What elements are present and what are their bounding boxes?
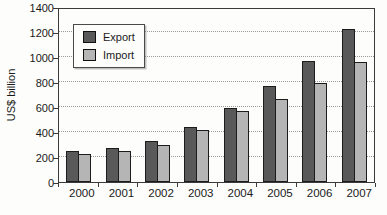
x-tick-label-2001: 2001 <box>99 187 143 199</box>
x-tick-label-2005: 2005 <box>258 187 302 199</box>
export-import-bar-chart: US$ billion 0200400600800100012001400 20… <box>0 0 387 215</box>
bar-import-2001 <box>118 151 131 182</box>
y-tick-label-200: 200 <box>12 152 54 164</box>
legend-item-export: Export <box>83 31 135 43</box>
legend-item-import: Import <box>83 49 135 61</box>
y-tick-label-1200: 1200 <box>12 27 54 39</box>
x-tick-label-2007: 2007 <box>337 187 381 199</box>
x-tick-mark-4 <box>217 183 218 187</box>
x-tick-label-2000: 2000 <box>60 187 104 199</box>
y-tick-label-800: 800 <box>12 77 54 89</box>
legend-label-export: Export <box>103 31 135 43</box>
x-tick-mark-5 <box>256 183 257 187</box>
bar-import-2000 <box>78 154 91 182</box>
plot-area: Export Import <box>58 8 375 183</box>
export-swatch-icon <box>83 31 96 43</box>
bar-group-2006 <box>295 9 334 182</box>
bar-import-2006 <box>314 83 327 182</box>
x-tick-label-2004: 2004 <box>218 187 262 199</box>
x-tick-mark-1 <box>98 183 99 187</box>
legend: Export Import <box>73 24 145 68</box>
import-swatch-icon <box>83 49 96 61</box>
bar-group-2007 <box>335 9 374 182</box>
x-tick-mark-8 <box>375 183 376 187</box>
y-tick-label-0: 0 <box>12 177 54 189</box>
bar-import-2004 <box>236 111 249 182</box>
y-tick-label-1000: 1000 <box>12 52 54 64</box>
legend-label-import: Import <box>103 49 134 61</box>
bar-import-2007 <box>354 62 367 182</box>
x-tick-label-2006: 2006 <box>298 187 342 199</box>
bar-group-2004 <box>217 9 256 182</box>
bar-group-2003 <box>177 9 216 182</box>
x-tick-mark-2 <box>137 183 138 187</box>
y-tick-label-600: 600 <box>12 102 54 114</box>
x-tick-mark-7 <box>335 183 336 187</box>
x-tick-mark-6 <box>296 183 297 187</box>
y-tick-label-400: 400 <box>12 127 54 139</box>
x-tick-mark-3 <box>177 183 178 187</box>
x-tick-label-2002: 2002 <box>139 187 183 199</box>
bar-group-2005 <box>256 9 295 182</box>
y-tick-label-1400: 1400 <box>12 2 54 14</box>
bar-import-2003 <box>196 130 209 182</box>
x-tick-label-2003: 2003 <box>179 187 223 199</box>
x-tick-mark-0 <box>58 183 59 187</box>
bar-import-2005 <box>275 99 288 182</box>
bar-import-2002 <box>157 145 170 182</box>
